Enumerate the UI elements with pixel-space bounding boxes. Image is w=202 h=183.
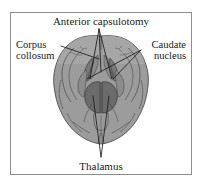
- label-caudate-nucleus-line2: nucleus: [154, 50, 186, 61]
- brain-diagram-svg: Anterior capsulotomy Corpus collosum Cau…: [0, 0, 202, 183]
- label-corpus-collosum-line1: Corpus: [16, 39, 46, 50]
- label-caudate-nucleus-line1: Caudate: [152, 39, 187, 50]
- label-thalamus: Thalamus: [79, 160, 122, 172]
- label-anterior-capsulotomy: Anterior capsulotomy: [53, 15, 150, 27]
- figure-root: Anterior capsulotomy Corpus collosum Cau…: [0, 0, 202, 183]
- label-corpus-collosum-line2: collosum: [16, 50, 55, 61]
- brain-illustration: [54, 36, 149, 144]
